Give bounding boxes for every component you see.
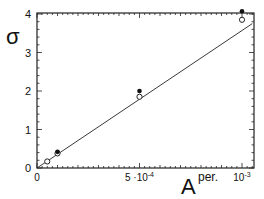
filled-circle-point — [55, 150, 60, 155]
x-tick-label: 0 — [34, 172, 40, 183]
svg-text:A: A — [181, 174, 196, 199]
x-axis-label: Aper. — [181, 170, 218, 199]
y-tick-label: 2 — [25, 85, 31, 97]
y-tick-label: 1 — [25, 124, 31, 136]
open-circle-point — [239, 17, 244, 22]
y-axis-label: σ — [6, 24, 20, 49]
axis-ticks — [37, 13, 254, 168]
fit-line — [37, 24, 252, 168]
open-circle-point — [137, 94, 142, 99]
plot-frame — [37, 13, 254, 168]
filled-circle-point — [240, 9, 245, 14]
data-series — [37, 9, 252, 168]
x-tick-label: 5 ·10-4 — [125, 171, 154, 183]
svg-text:per.: per. — [198, 170, 218, 184]
y-tick-label: 4 — [25, 8, 31, 20]
y-tick-label: 0 — [25, 162, 31, 174]
y-tick-label: 3 — [25, 47, 31, 59]
chart: 0123405 ·10-410-3 σ Aper. — [0, 0, 264, 199]
scatter-plot: 0123405 ·10-410-3 σ Aper. — [0, 0, 264, 199]
x-tick-label: 10-3 — [233, 171, 250, 183]
filled-circle-point — [137, 89, 142, 94]
open-circle-point — [45, 159, 50, 164]
